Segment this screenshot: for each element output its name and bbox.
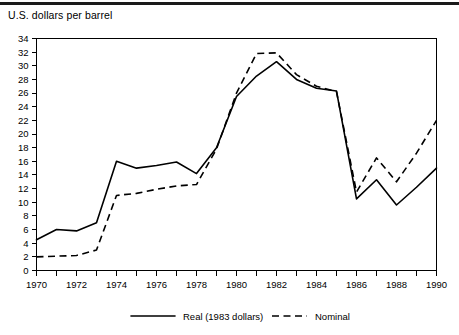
y-axis-tick-label: 24 — [18, 101, 29, 112]
chart-legend: Real (1983 dollars)Nominal — [131, 311, 350, 322]
x-axis-tick-label: 1974 — [106, 279, 127, 290]
y-axis: 0246810121416182022242628303234 — [18, 33, 37, 276]
y-axis-tick-label: 32 — [18, 47, 29, 58]
y-axis-tick-label: 4 — [23, 238, 28, 249]
x-axis-tick-label: 1978 — [186, 279, 207, 290]
y-axis-tick-label: 30 — [18, 60, 29, 71]
x-axis: 1970197219741976197819801982198419861988… — [26, 271, 447, 290]
y-axis-tick-label: 18 — [18, 142, 29, 153]
data-series-group — [37, 53, 437, 257]
x-axis-tick-label: 1970 — [26, 279, 47, 290]
x-axis-tick-label: 1990 — [426, 279, 447, 290]
y-axis-tick-label: 2 — [23, 251, 28, 262]
x-axis-tick-label: 1986 — [346, 279, 367, 290]
chart-svg: 0246810121416182022242628303234 19701972… — [0, 0, 459, 335]
y-axis-tick-label: 8 — [23, 210, 28, 221]
y-axis-tick-label: 26 — [18, 87, 29, 98]
x-axis-tick-label: 1982 — [266, 279, 287, 290]
x-axis-tick-label: 1980 — [226, 279, 247, 290]
series-line-nominal — [37, 53, 437, 257]
y-axis-tick-label: 22 — [18, 115, 29, 126]
y-axis-tick-label: 6 — [23, 224, 28, 235]
y-axis-tick-label: 16 — [18, 156, 29, 167]
plot-frame — [37, 39, 437, 271]
oil-price-line-chart: 0246810121416182022242628303234 19701972… — [0, 0, 459, 335]
y-axis-tick-label: 20 — [18, 128, 29, 139]
series-line-real-1983-dollars — [37, 62, 437, 240]
legend-label: Real (1983 dollars) — [183, 311, 263, 322]
x-axis-tick-label: 1984 — [306, 279, 327, 290]
y-axis-tick-label: 12 — [18, 183, 29, 194]
x-axis-tick-label: 1976 — [146, 279, 167, 290]
y-axis-tick-label: 28 — [18, 74, 29, 85]
x-axis-tick-label: 1988 — [386, 279, 407, 290]
legend-label: Nominal — [315, 311, 350, 322]
y-axis-tick-label: 14 — [18, 169, 29, 180]
y-axis-tick-label: 0 — [23, 265, 28, 276]
x-axis-tick-label: 1972 — [66, 279, 87, 290]
y-axis-tick-label: 10 — [18, 197, 29, 208]
y-axis-tick-label: 34 — [18, 33, 29, 44]
